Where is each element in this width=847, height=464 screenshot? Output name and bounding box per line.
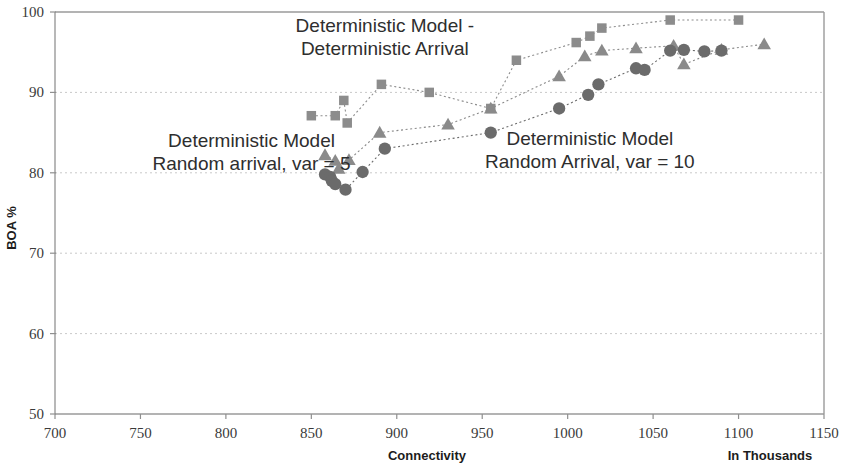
tick-marks: [50, 12, 824, 419]
x-tick-label: 1100: [724, 425, 753, 441]
series-connector-line: [325, 44, 764, 169]
data-point-square: [665, 15, 675, 25]
x-tick-label: 750: [129, 425, 152, 441]
annotation-line: Deterministic Model: [506, 128, 673, 149]
data-point-triangle: [677, 57, 691, 69]
x-tick-label: 1050: [638, 425, 668, 441]
data-point-triangle: [595, 44, 609, 56]
data-point-square: [734, 15, 744, 25]
axis-frame: [55, 12, 824, 414]
random-var5-label: Deterministic ModelRandom arrival, var =…: [153, 130, 351, 174]
data-point-triangle: [552, 70, 566, 82]
annotations-layer: Deterministic Model -Deterministic Arriv…: [153, 15, 695, 174]
data-point-triangle: [629, 41, 643, 53]
data-point-circle: [339, 184, 351, 196]
x-axis-title-secondary: In Thousands: [728, 448, 813, 463]
y-tick-label: 60: [29, 326, 44, 342]
annotation-line: Deterministic Model -: [296, 15, 474, 36]
annotation-line: Random Arrival, var = 10: [485, 151, 695, 172]
data-point-square: [571, 38, 581, 48]
data-point-circle: [698, 45, 710, 57]
y-tick-label: 90: [29, 84, 44, 100]
axis-titles: BOA %ConnectivityIn Thousands: [4, 206, 812, 463]
deterministic-arrival-label: Deterministic Model -Deterministic Arriv…: [296, 15, 474, 59]
data-point-circle: [638, 64, 650, 76]
y-axis-title: BOA %: [4, 206, 19, 250]
data-point-circle: [592, 78, 604, 90]
y-tick-label: 50: [29, 406, 44, 422]
x-tick-label: 950: [471, 425, 494, 441]
data-point-circle: [715, 44, 727, 56]
data-point-square: [377, 80, 387, 90]
data-point-triangle: [578, 49, 592, 61]
data-point-square: [331, 111, 341, 121]
y-tick-label: 70: [29, 245, 44, 261]
data-point-square: [307, 111, 317, 121]
data-point-square: [339, 96, 349, 106]
data-point-square: [512, 55, 522, 65]
x-tick-label: 800: [215, 425, 238, 441]
x-tick-label: 850: [300, 425, 323, 441]
chart-container: 5060708090100700750800850900950100010501…: [0, 0, 847, 464]
data-point-square: [342, 118, 352, 128]
x-axis-title: Connectivity: [388, 448, 467, 463]
grid-lines: [55, 92, 824, 333]
data-point-circle: [664, 44, 676, 56]
data-point-circle: [356, 166, 368, 178]
data-point-circle: [582, 89, 594, 101]
y-tick-label: 80: [29, 165, 44, 181]
x-tick-label: 700: [44, 425, 67, 441]
tick-labels: 5060708090100700750800850900950100010501…: [22, 4, 839, 441]
data-point-square: [585, 31, 595, 41]
data-point-triangle: [757, 37, 771, 49]
data-point-triangle: [441, 118, 455, 130]
x-tick-label: 1000: [553, 425, 583, 441]
data-point-circle: [485, 126, 497, 138]
random-var10-label: Deterministic ModelRandom Arrival, var =…: [485, 128, 695, 172]
x-tick-label: 900: [386, 425, 409, 441]
data-point-circle: [553, 102, 565, 114]
annotation-line: Random arrival, var = 5: [153, 153, 351, 174]
data-point-square: [597, 23, 607, 33]
x-tick-label: 1150: [809, 425, 838, 441]
data-point-circle: [379, 143, 391, 155]
y-tick-label: 100: [22, 4, 45, 20]
data-point-square: [424, 88, 434, 98]
annotation-line: Deterministic Model: [168, 130, 335, 151]
scatter-plot: 5060708090100700750800850900950100010501…: [0, 0, 847, 464]
data-point-circle: [678, 44, 690, 56]
annotation-line: Deterministic Arrival: [301, 38, 469, 59]
